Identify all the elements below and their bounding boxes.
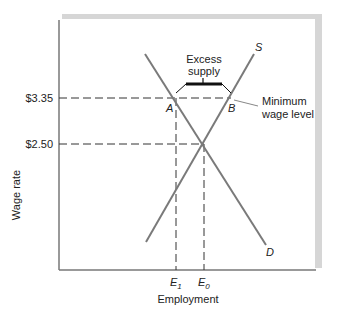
y-tick-335: $3.35 [25,92,53,104]
frame-top [62,14,322,19]
y-axis-label: Wage rate [10,170,22,220]
excess-supply-label-1: Excess [186,53,222,65]
demand-curve-label: D [266,246,274,258]
chart-canvas: Wage rate Employment $3.35 $2.50 E1 E0 A… [0,0,339,318]
y-tick-250: $2.50 [25,138,53,150]
point-b-label: B [228,102,235,114]
min-wage-label-1: Minimum [262,95,307,107]
frame-right [315,14,322,268]
min-wage-label-2: wage level [261,108,314,120]
x-tick-e1: E1 [170,276,182,291]
min-wage-leader-line [234,100,258,106]
x-tick-e0: E0 [198,276,210,291]
point-a-label: A [165,102,173,114]
supply-curve-label: S [255,41,263,53]
x-axis-label: Employment [157,293,218,305]
excess-supply-label-2: supply [188,65,220,77]
